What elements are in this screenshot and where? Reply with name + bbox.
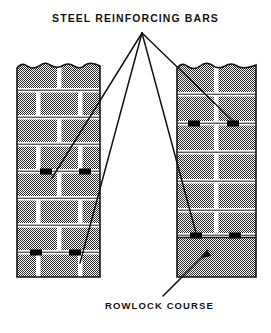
rebar-marker <box>79 169 91 175</box>
left-wall <box>14 60 104 280</box>
masonry-reinforcement-diagram <box>0 0 271 333</box>
rebar-marker <box>30 250 42 256</box>
rowlock-course-label: ROWLOCK COURSE <box>0 300 271 311</box>
right-wall-head-joints <box>214 60 219 235</box>
right-wall <box>174 60 260 277</box>
rebar-marker <box>188 121 200 127</box>
rebar-marker <box>69 250 81 256</box>
rebar-marker <box>40 169 52 175</box>
title-label: STEEL REINFORCING BARS <box>0 12 271 24</box>
